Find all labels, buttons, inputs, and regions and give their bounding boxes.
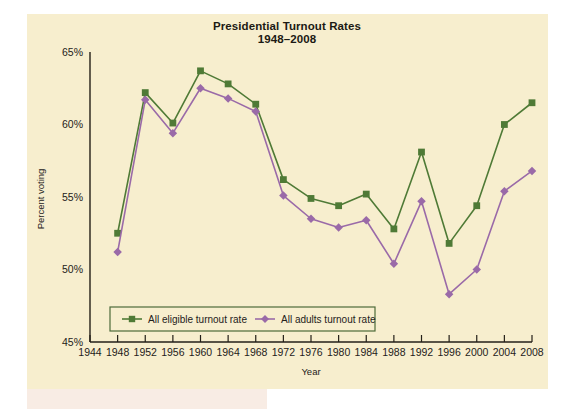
x-tick-label: 1992 [410, 346, 434, 358]
data-point-marker [113, 248, 122, 257]
x-tick-label: 1980 [327, 346, 351, 358]
data-point-marker [142, 89, 149, 96]
data-point-marker [308, 195, 315, 202]
data-point-marker [362, 216, 371, 225]
y-tick-label-55: 55% [62, 191, 83, 203]
x-tick-label: 1964 [216, 346, 240, 358]
data-point-marker [169, 120, 176, 127]
data-point-marker [225, 81, 232, 88]
x-tick-label: 1996 [437, 346, 461, 358]
y-tick-label-50: 50% [62, 263, 83, 275]
data-point-marker [224, 94, 233, 103]
x-axis: 1944194819521956196019641968197219761980… [78, 335, 544, 377]
x-tick-label: 1944 [78, 346, 102, 358]
data-point-marker [280, 176, 287, 183]
legend: All eligible turnout rateAll adults turn… [110, 307, 376, 331]
data-point-marker [252, 101, 259, 108]
caption-strip [27, 389, 267, 409]
data-series-layer [113, 67, 536, 298]
x-axis-title: Year [301, 366, 320, 377]
data-point-marker [446, 240, 453, 247]
y-tick-label-65: 65% [62, 46, 83, 58]
data-series [114, 67, 535, 246]
data-point-marker [335, 202, 342, 209]
data-point-marker [196, 84, 205, 93]
x-tick-labels: 1944194819521956196019641968197219761980… [78, 346, 544, 358]
figure-panel: Presidential Turnout Rates 1948–2008 65%… [27, 14, 548, 389]
x-tick-label: 1988 [382, 346, 406, 358]
chart-title-line1: Presidential Turnout Rates [213, 20, 361, 32]
x-tick-label: 1968 [244, 346, 268, 358]
x-tick-label: 2008 [520, 346, 544, 358]
data-point-marker [418, 149, 425, 156]
legend-marker [261, 315, 269, 323]
data-point-marker [390, 226, 397, 233]
y-axis-title: Percent voting [35, 169, 46, 230]
legend-entries: All eligible turnout rateAll adults turn… [122, 314, 376, 325]
legend-label: All adults turnout rate [281, 314, 376, 325]
x-tick-label: 2004 [493, 346, 517, 358]
data-point-marker [334, 223, 343, 232]
x-tick-label: 1960 [189, 346, 213, 358]
x-tick-label: 1948 [106, 346, 130, 358]
y-tick-label-60: 60% [62, 118, 83, 130]
x-tick-label: 1984 [355, 346, 379, 358]
legend-marker [129, 316, 135, 322]
x-tick-label: 1952 [134, 346, 158, 358]
data-point-marker [197, 67, 204, 74]
x-tick-label: 1976 [299, 346, 323, 358]
chart-title-line2: 1948–2008 [258, 33, 317, 45]
data-point-marker [529, 99, 536, 106]
x-tick-label: 1972 [272, 346, 296, 358]
data-point-marker [363, 191, 370, 198]
legend-label: All eligible turnout rate [148, 314, 247, 325]
series-line [118, 88, 532, 294]
data-point-marker [390, 259, 399, 268]
data-point-marker [473, 202, 480, 209]
data-point-marker [501, 121, 508, 128]
x-tick-label: 1956 [161, 346, 185, 358]
series-line [118, 71, 532, 244]
x-tick-marks [90, 335, 532, 342]
chart-area: Presidential Turnout Rates 1948–2008 65%… [27, 14, 548, 389]
x-tick-label: 2000 [465, 346, 489, 358]
y-axis: 65% 60% 55% 50% 45% Percent voting [35, 46, 90, 348]
data-point-marker [417, 197, 426, 206]
turnout-line-chart: Presidential Turnout Rates 1948–2008 65%… [27, 14, 548, 389]
